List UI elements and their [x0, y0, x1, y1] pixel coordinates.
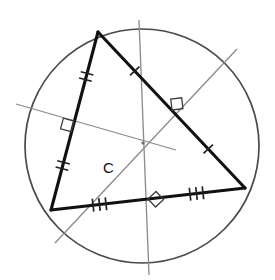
geometry-figure: C [0, 0, 275, 280]
triangle-group [51, 32, 245, 210]
right-angle-marks-group [61, 98, 183, 207]
perpendicular-bisectors-group [16, 20, 237, 275]
tick-mark-bottom-side-half1 [92, 199, 93, 212]
tick-mark-bottom-side-half1 [105, 197, 106, 210]
tick-mark-bottom-side-half2 [202, 186, 203, 199]
congruence-ticks-group [56, 67, 213, 212]
circumscribed-circle [25, 29, 259, 263]
bisector-left-side [16, 104, 176, 150]
tick-mark-bottom-side-half1 [99, 198, 100, 211]
circumcenter-point [141, 141, 144, 144]
tick-mark-bottom-side-half2 [189, 188, 190, 201]
tick-mark-bottom-side-half2 [196, 187, 197, 200]
diagram-canvas: C [0, 0, 275, 280]
vertex-label-c: C [103, 159, 114, 176]
